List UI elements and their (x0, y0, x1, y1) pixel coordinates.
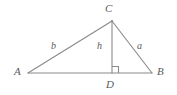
vertex-label-b: B (157, 66, 164, 77)
side-label-a: a (137, 41, 142, 51)
vertex-label-a: A (14, 66, 21, 77)
geometry-figure: A B C D b h a (0, 0, 177, 95)
vertex-label-c: C (105, 3, 112, 14)
vertex-label-d: D (106, 79, 114, 90)
side-label-b: b (51, 41, 56, 51)
side-label-h: h (97, 41, 102, 51)
segment-cb (112, 21, 152, 73)
right-angle-marker-icon (112, 67, 119, 74)
triangle-diagram-svg (0, 0, 177, 95)
vertex-dot-c (111, 20, 113, 22)
